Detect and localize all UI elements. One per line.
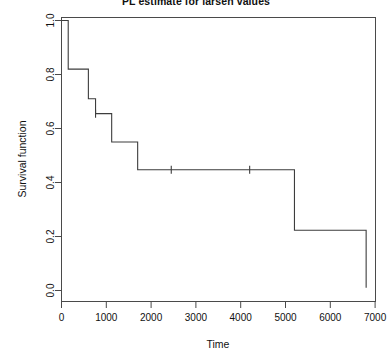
- plot-frame: [62, 18, 376, 302]
- x-tick-label: 2000: [140, 312, 163, 323]
- x-axis-tick-labels: 0 1000 2000 3000 4000 5000 6000 7000: [59, 312, 387, 323]
- x-tick-label: 5000: [274, 312, 297, 323]
- y-tick-label: 0.2: [45, 229, 56, 243]
- y-tick-label: 0.6: [45, 121, 56, 135]
- survival-chart-svg: 1.0 0.8 0.6 0.4 0.2 0.0 Survival functio…: [0, 0, 392, 364]
- y-axis-title: Survival function: [16, 120, 28, 197]
- y-tick-label: 1.0: [45, 13, 56, 27]
- x-tick-label: 4000: [230, 312, 253, 323]
- x-axis-ticks: [62, 302, 376, 309]
- x-tick-label: 6000: [319, 312, 342, 323]
- x-tick-label: 7000: [364, 312, 387, 323]
- x-tick-label: 3000: [185, 312, 208, 323]
- y-tick-label: 0.0: [45, 283, 56, 297]
- y-axis-ticks: [55, 21, 62, 291]
- x-tick-label: 1000: [95, 312, 118, 323]
- y-axis-tick-labels: 1.0 0.8 0.6 0.4 0.2 0.0: [45, 13, 56, 297]
- x-tick-label: 0: [59, 312, 65, 323]
- survival-step-curve: [62, 21, 367, 288]
- x-axis-title: Time: [207, 338, 230, 350]
- y-tick-label: 0.4: [45, 175, 56, 189]
- survival-plot-figure: PL estimate for larsen values 1.0 0.8 0.…: [0, 0, 392, 364]
- y-tick-label: 0.8: [45, 67, 56, 81]
